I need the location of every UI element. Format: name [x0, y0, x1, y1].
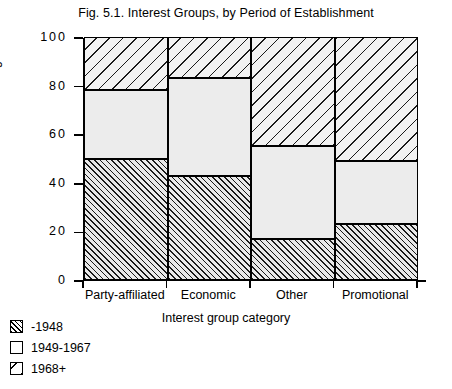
- x-axis-tick: [249, 281, 251, 288]
- y-axis-tick-label: 20: [7, 224, 67, 238]
- bar-stack[interactable]: [168, 37, 252, 280]
- y-axis-tick-label: 0: [7, 273, 67, 287]
- bar-segment[interactable]: [84, 37, 168, 90]
- legend-swatch-icon: [10, 320, 23, 333]
- x-axis-tick: [166, 281, 168, 288]
- y-axis-tick-label: 100: [7, 30, 67, 44]
- x-axis-tick: [82, 281, 84, 288]
- legend: -19481949-19671968+: [10, 316, 91, 379]
- bar-segment[interactable]: [251, 146, 335, 238]
- y-axis-top-tick: [74, 37, 83, 39]
- y-axis-tick: [74, 183, 83, 185]
- x-axis-tick-label: Party-affiliated: [85, 288, 165, 302]
- y-axis-tick: [74, 232, 83, 234]
- bar-stack[interactable]: [251, 37, 335, 280]
- bar-segment[interactable]: [335, 161, 419, 224]
- x-axis-tick: [416, 281, 418, 288]
- y-axis-tick: [74, 86, 83, 88]
- x-axis-tick-label: Economic: [181, 288, 236, 302]
- y-axis-label: Percentage: [0, 54, 2, 118]
- x-axis-tick-label: Promotional: [342, 288, 409, 302]
- legend-item[interactable]: 1949-1967: [10, 337, 91, 358]
- y-axis-tick-label: 40: [7, 176, 67, 190]
- bar-segment[interactable]: [84, 90, 168, 158]
- bar-segment[interactable]: [168, 37, 252, 78]
- x-axis-tick: [333, 281, 335, 288]
- bar-stack[interactable]: [335, 37, 419, 280]
- bar-segment[interactable]: [84, 159, 168, 281]
- bar-segment[interactable]: [335, 37, 419, 161]
- y-axis-tick: [74, 134, 83, 136]
- legend-swatch-icon: [10, 362, 23, 375]
- bar-segment[interactable]: [168, 176, 252, 280]
- legend-swatch-icon: [10, 341, 23, 354]
- bar-segment[interactable]: [251, 37, 335, 146]
- y-axis-tick-label: 60: [7, 127, 67, 141]
- legend-item-label: 1968+: [31, 362, 66, 376]
- plot-area: [83, 38, 417, 281]
- chart-title: Fig. 5.1. Interest Groups, by Period of …: [0, 6, 452, 20]
- bar-stack[interactable]: [84, 37, 168, 280]
- legend-item-label: -1948: [31, 320, 63, 334]
- bar-segment[interactable]: [251, 239, 335, 280]
- bar-segment[interactable]: [168, 78, 252, 175]
- legend-item-label: 1949-1967: [31, 341, 91, 355]
- legend-item[interactable]: -1948: [10, 316, 91, 337]
- bar-segment[interactable]: [335, 224, 419, 280]
- x-axis-tick-label: Other: [276, 288, 307, 302]
- legend-item[interactable]: 1968+: [10, 358, 91, 379]
- x-axis-right-tick: [417, 280, 426, 282]
- y-axis-tick-label: 80: [7, 79, 67, 93]
